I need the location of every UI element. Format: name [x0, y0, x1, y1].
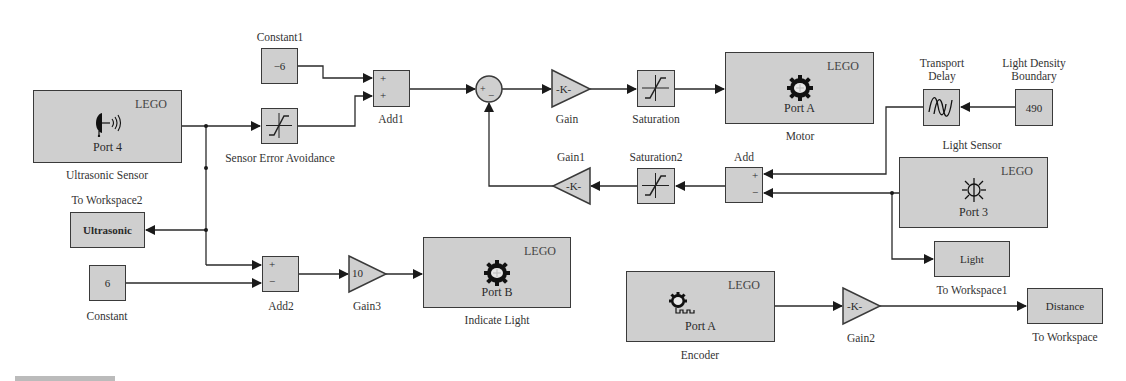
port-label: Port B — [424, 285, 570, 300]
svg-text:−: − — [488, 89, 494, 101]
light-sensor-label: Light Sensor — [942, 139, 1001, 152]
add1-block[interactable]: + + — [373, 70, 410, 107]
gain2-label: Gain2 — [847, 332, 875, 345]
saturation-label: Saturation — [632, 113, 679, 126]
svg-text:+: + — [480, 83, 486, 94]
to-workspace-label: To Workspace — [1032, 331, 1097, 344]
light-density-boundary-label: Light Density Boundary — [1002, 57, 1066, 83]
saturation2-label: Saturation2 — [629, 151, 682, 164]
lego-brand-text: LEGO — [728, 278, 760, 293]
gain2-value[interactable]: -K- — [847, 300, 862, 312]
ultrasonic-speaker-icon — [90, 111, 126, 141]
to-workspace-block[interactable]: Distance — [1027, 288, 1103, 324]
to-workspace2-block[interactable]: Ultrasonic — [70, 212, 145, 248]
add-block[interactable]: + − — [725, 167, 763, 203]
saturation-icon — [638, 71, 673, 105]
add1-sign-2: + — [380, 89, 386, 101]
port-label: Port A — [627, 319, 774, 334]
lego-brand-text: LEGO — [135, 97, 167, 112]
port-label: Port A — [726, 101, 873, 116]
saturation2-block[interactable] — [637, 168, 675, 204]
to-workspace1-block[interactable]: Light — [934, 241, 1010, 277]
motor-label: Motor — [786, 130, 815, 143]
lego-brand-text: LEGO — [827, 59, 859, 74]
saturation-icon — [262, 109, 296, 142]
transport-delay-block[interactable] — [923, 89, 960, 126]
add2-block[interactable]: + − — [262, 256, 299, 292]
constant-value: 6 — [90, 277, 125, 289]
indicate-light-block[interactable]: LEGO Port B — [423, 237, 571, 308]
encoder-label: Encoder — [681, 349, 719, 362]
encoder-block[interactable]: LEGO Port A — [626, 271, 775, 342]
add2-sign-minus: − — [269, 275, 275, 287]
light-density-boundary-block[interactable]: 490 — [1015, 89, 1053, 126]
lego-brand-text: LEGO — [1001, 164, 1033, 179]
sensor-error-avoidance-block[interactable] — [261, 108, 298, 144]
port-label: Port 3 — [900, 205, 1047, 220]
ultrasonic-sensor-label: Ultrasonic Sensor — [66, 169, 148, 182]
constant-label: Constant — [87, 310, 128, 323]
lego-brand-text: LEGO — [524, 244, 556, 259]
transport-delay-icon — [924, 90, 958, 124]
constant1-value: −6 — [262, 60, 297, 72]
gain1-label: Gain1 — [557, 151, 585, 164]
ultrasonic-sensor-block[interactable]: LEGO Port 4 — [33, 90, 182, 163]
to-workspace1-label: To Workspace1 — [936, 284, 1007, 297]
constant-block[interactable]: 6 — [89, 265, 126, 301]
to-workspace1-var: Light — [935, 253, 1009, 265]
gain-value[interactable]: -K- — [556, 83, 571, 95]
gain3-label: Gain3 — [353, 300, 381, 313]
add-label: Add — [734, 151, 754, 164]
constant1-label: Constant1 — [257, 31, 304, 44]
light-bulb-icon — [960, 176, 988, 208]
add2-sign-plus: + — [269, 258, 275, 270]
gain3-value[interactable]: 10 — [352, 267, 363, 279]
transport-delay-label: Transport Delay — [920, 57, 964, 83]
constant1-block[interactable]: −6 — [261, 48, 298, 84]
add-sign-plus: + — [752, 169, 758, 181]
boundary-value: 490 — [1016, 102, 1052, 114]
saturation-icon — [638, 169, 673, 202]
to-workspace-var: Distance — [1028, 300, 1102, 312]
port-label: Port 4 — [34, 140, 181, 155]
gain-label: Gain — [556, 113, 578, 126]
motor-block[interactable]: LEGO Port A — [725, 52, 874, 124]
gain1-value[interactable]: -K- — [566, 180, 581, 192]
scrollbar-fragment — [15, 376, 115, 381]
encoder-icon — [669, 292, 697, 320]
add1-label: Add1 — [378, 113, 404, 126]
indicate-light-label: Indicate Light — [465, 314, 530, 327]
light-sensor-block[interactable]: LEGO Port 3 — [899, 157, 1048, 228]
add1-sign-1: + — [380, 72, 386, 84]
to-workspace2-label: To Workspace2 — [71, 194, 142, 207]
to-workspace2-var: Ultrasonic — [71, 224, 144, 236]
saturation-block[interactable] — [637, 70, 675, 107]
add-sign-minus: − — [752, 186, 758, 198]
add2-label: Add2 — [268, 300, 294, 313]
sensor-error-avoidance-label: Sensor Error Avoidance — [225, 152, 335, 165]
